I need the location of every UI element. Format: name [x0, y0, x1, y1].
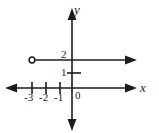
- open-circle-endpoint: [29, 57, 35, 63]
- ray-arrow-right-icon: [125, 56, 137, 65]
- origin-label: 0: [75, 90, 81, 101]
- arrow-right-icon: [125, 84, 137, 93]
- coordinate-plane-figure: y x -3 -2 -1 0 1 2: [0, 0, 159, 133]
- graph-canvas: [0, 0, 159, 133]
- arrow-down-icon: [68, 119, 77, 131]
- x-tick-label-neg1: -1: [54, 92, 63, 103]
- arrow-left-icon: [5, 84, 17, 93]
- y-tick-label-two: 2: [61, 49, 67, 60]
- y-tick-label-one: 1: [61, 67, 67, 78]
- x-tick-label-neg3: -3: [24, 92, 33, 103]
- x-tick-label-neg2: -2: [39, 92, 48, 103]
- x-axis-label: x: [140, 81, 146, 94]
- y-axis-label: y: [74, 3, 80, 16]
